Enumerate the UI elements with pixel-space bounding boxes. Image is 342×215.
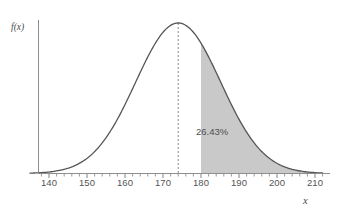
x-tick-label-170: 170 <box>143 177 183 188</box>
x-axis-label: x <box>303 195 308 206</box>
shaded-area-percent-label: 26.43% <box>196 126 228 137</box>
right-tail-shaded-region <box>201 43 323 173</box>
x-tick-label-210: 210 <box>295 177 335 188</box>
x-tick-label-150: 150 <box>67 177 107 188</box>
x-tick-label-200: 200 <box>257 177 297 188</box>
y-axis-label: f(x) <box>11 22 24 32</box>
x-tick-label-140: 140 <box>29 177 69 188</box>
x-tick-label-190: 190 <box>219 177 259 188</box>
x-tick-label-180: 180 <box>181 177 221 188</box>
density-curve <box>30 23 323 173</box>
x-tick-label-160: 160 <box>105 177 145 188</box>
normal-distribution-chart: f(x) x 140 150 160 170 180 190 200 210 2… <box>0 0 342 215</box>
